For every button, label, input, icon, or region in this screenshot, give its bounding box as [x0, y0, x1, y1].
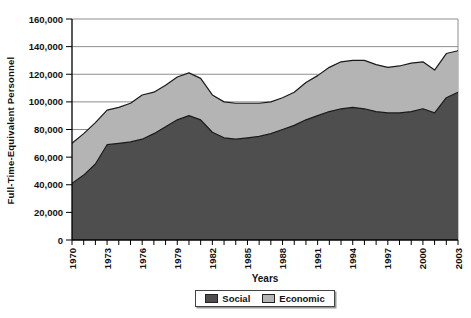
svg-text:1988: 1988 — [277, 248, 288, 269]
svg-text:100,000: 100,000 — [29, 96, 63, 107]
svg-text:1997: 1997 — [382, 248, 393, 269]
legend-label-economic: Economic — [279, 293, 324, 304]
svg-text:80,000: 80,000 — [34, 124, 63, 135]
svg-text:2003: 2003 — [453, 248, 464, 269]
svg-text:20,000: 20,000 — [34, 207, 63, 218]
svg-text:0: 0 — [58, 235, 63, 246]
svg-text:1970: 1970 — [67, 248, 78, 269]
svg-text:40,000: 40,000 — [34, 179, 63, 190]
legend-label-social: Social — [222, 293, 250, 304]
legend-item-social: Social — [205, 293, 250, 304]
svg-text:1973: 1973 — [102, 248, 113, 269]
chart-canvas: 020,00040,00060,00080,000100,000120,0001… — [0, 0, 471, 318]
legend-item-economic: Economic — [262, 293, 324, 304]
svg-text:60,000: 60,000 — [34, 152, 63, 163]
svg-text:1982: 1982 — [207, 248, 218, 269]
legend-box: Social Economic — [195, 290, 334, 307]
y-axis-title: Full-Time-Equivalent Personnel — [5, 20, 20, 241]
social-swatch-icon — [205, 294, 218, 303]
svg-text:1994: 1994 — [347, 247, 358, 269]
svg-text:1979: 1979 — [172, 248, 183, 269]
economic-swatch-icon — [262, 294, 275, 303]
stacked-area-chart: 020,00040,00060,00080,000100,000120,0001… — [0, 0, 471, 318]
svg-text:160,000: 160,000 — [29, 14, 63, 25]
svg-text:1985: 1985 — [242, 247, 253, 269]
svg-text:1991: 1991 — [312, 247, 323, 269]
svg-text:1976: 1976 — [137, 248, 148, 269]
x-axis-title: Years — [72, 273, 458, 284]
svg-text:140,000: 140,000 — [29, 41, 63, 52]
legend: Social Economic — [72, 290, 458, 307]
svg-text:120,000: 120,000 — [29, 69, 63, 80]
svg-text:2000: 2000 — [417, 248, 428, 269]
